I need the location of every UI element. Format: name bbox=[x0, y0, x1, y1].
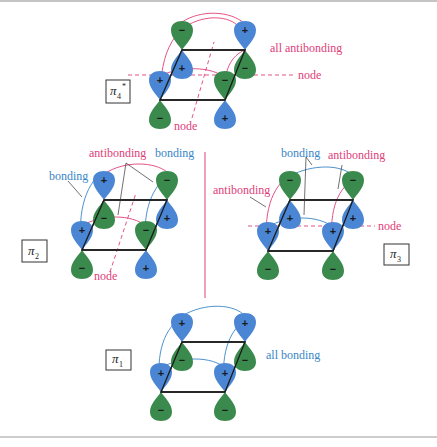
phase-sign: + bbox=[242, 317, 248, 329]
annotation-bonding: bonding bbox=[281, 146, 320, 160]
orbital-pi3: − + − + + − + − bonding antibonding anti… bbox=[213, 146, 409, 280]
annotation-antibonding: antibonding bbox=[213, 183, 270, 197]
phase-sign: + bbox=[179, 62, 185, 74]
annotation-node: node bbox=[298, 68, 321, 82]
phase-sign: − bbox=[79, 262, 85, 274]
leader-line bbox=[68, 181, 82, 197]
annotation-node: node bbox=[174, 119, 197, 133]
phase-sign: + bbox=[330, 225, 336, 237]
phase-sign: − bbox=[242, 354, 248, 366]
phase-sign: − bbox=[242, 62, 248, 74]
phase-sign: − bbox=[143, 224, 149, 236]
node-plane-diagonal bbox=[192, 42, 214, 118]
phase-sign: + bbox=[265, 225, 271, 237]
phase-sign: + bbox=[79, 224, 85, 236]
phase-sign: + bbox=[350, 212, 356, 224]
phase-sign: + bbox=[242, 24, 248, 36]
orbital-label: π bbox=[110, 83, 117, 98]
phase-sign: + bbox=[164, 212, 170, 224]
phase-sign: + bbox=[222, 112, 228, 124]
bonding-arc-top bbox=[290, 167, 353, 176]
annotation-bonding: bonding bbox=[49, 169, 88, 183]
phase-sign: + bbox=[157, 74, 163, 86]
orbital-label-subscript: 4 bbox=[117, 92, 121, 101]
annotation-antibonding: antibonding bbox=[89, 146, 146, 160]
phase-sign: − bbox=[179, 354, 185, 366]
phase-sign: − bbox=[101, 212, 107, 224]
phase-sign: − bbox=[157, 112, 163, 124]
phase-sign: + bbox=[287, 212, 293, 224]
orbital-label-subscript: 1 bbox=[119, 360, 123, 369]
orbital-pi4-star: − + + − + − − + all antibonding node nod… bbox=[106, 13, 342, 133]
annotation-node: node bbox=[94, 269, 117, 283]
phase-sign: + bbox=[222, 367, 228, 379]
leader-line bbox=[118, 163, 126, 215]
annotation-node: node bbox=[378, 219, 401, 233]
phase-sign: − bbox=[287, 174, 293, 186]
phase-sign: − bbox=[222, 74, 228, 86]
phase-sign: − bbox=[222, 404, 228, 416]
orbital-label: π bbox=[28, 243, 35, 258]
leader-line bbox=[250, 197, 266, 207]
orbital-label-star: * bbox=[122, 82, 126, 91]
phase-sign: + bbox=[143, 262, 149, 274]
bonding-arc-front bbox=[161, 359, 225, 368]
leader-line bbox=[304, 157, 306, 215]
orbital-label: π bbox=[390, 246, 397, 261]
antibonding-arc-top bbox=[104, 164, 167, 174]
phase-sign: − bbox=[330, 263, 336, 275]
annotation-antibonding: antibonding bbox=[328, 148, 385, 162]
annotation-all-bonding: all bonding bbox=[266, 348, 320, 362]
node-plane-diagonal bbox=[110, 193, 136, 272]
phase-sign: + bbox=[101, 174, 107, 186]
orbital-label: π bbox=[112, 351, 119, 366]
annotation-all-antibonding: all antibonding bbox=[270, 41, 342, 55]
phase-sign: + bbox=[158, 367, 164, 379]
antibonding-arc-top bbox=[182, 13, 245, 24]
orbital-label-subscript: 2 bbox=[35, 252, 39, 261]
bonding-arc-top bbox=[182, 306, 245, 316]
annotation-bonding: bonding bbox=[155, 146, 194, 160]
pi-molecular-orbitals-diagram: − + + − + − − + all antibonding node nod… bbox=[0, 0, 437, 447]
phase-sign: − bbox=[158, 404, 164, 416]
orbital-label-subscript: 3 bbox=[397, 255, 401, 264]
phase-sign: − bbox=[350, 174, 356, 186]
leader-line bbox=[126, 163, 153, 182]
phase-sign: + bbox=[179, 317, 185, 329]
orbital-pi1: + − + − + − + − all bonding π 1 bbox=[106, 306, 320, 421]
phase-sign: − bbox=[164, 174, 170, 186]
phase-sign: − bbox=[179, 24, 185, 36]
phase-sign: − bbox=[265, 263, 271, 275]
orbital-pi2: + − − + + − − + antibonding bonding bond… bbox=[22, 146, 194, 283]
